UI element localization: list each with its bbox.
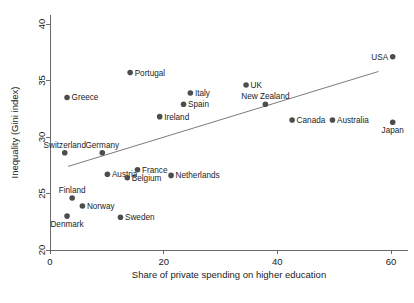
data-point: USA (371, 53, 395, 62)
data-point: Spain (181, 100, 210, 109)
y-tick-label: 25 (36, 188, 47, 199)
data-point: Portugal (127, 69, 165, 78)
point-label: Finland (59, 186, 86, 195)
point-marker (157, 114, 163, 120)
point-marker (64, 95, 70, 101)
point-marker (64, 213, 70, 219)
point-marker (263, 101, 269, 107)
point-marker (390, 120, 396, 126)
point-label: Sweden (125, 213, 155, 222)
y-tick-label: 35 (36, 75, 47, 86)
point-marker (127, 70, 133, 76)
point-marker (188, 90, 194, 96)
point-label: Australia (337, 116, 369, 125)
point-marker (330, 117, 336, 123)
point-label: Portugal (135, 69, 166, 78)
point-label: Italy (195, 89, 211, 98)
point-label: Spain (188, 100, 209, 109)
x-tick-label: 60 (386, 256, 397, 267)
data-point: Australia (330, 116, 370, 125)
point-label: New Zealand (241, 92, 290, 101)
data-point: Greece (64, 93, 99, 102)
point-marker (124, 175, 130, 181)
point-label: Germany (85, 141, 120, 150)
data-point: Netherlands (168, 171, 219, 180)
point-marker (168, 173, 174, 179)
point-marker (62, 150, 68, 156)
data-point: Sweden (118, 213, 155, 222)
data-point: Norway (80, 202, 116, 211)
point-label: Switzerland (44, 141, 87, 150)
x-tick-label: 20 (158, 256, 169, 267)
point-label: Denmark (50, 220, 84, 229)
scatter-plot: 20253035400204060Share of private spendi… (0, 0, 414, 303)
point-marker (80, 203, 86, 209)
point-label: USA (371, 53, 388, 62)
data-point: Germany (85, 141, 120, 156)
point-marker (181, 101, 187, 107)
point-marker (390, 54, 396, 60)
data-point: Ireland (157, 113, 190, 122)
point-marker (99, 150, 105, 156)
x-tick-label: 40 (272, 256, 283, 267)
point-marker (105, 171, 111, 177)
point-label: Norway (87, 202, 116, 211)
point-label: Canada (297, 116, 326, 125)
data-point: Japan (382, 120, 405, 135)
data-point: Canada (289, 116, 325, 125)
data-point: New Zealand (241, 92, 290, 107)
data-point: UK (243, 81, 262, 90)
data-point: Italy (188, 89, 211, 98)
data-point: Denmark (50, 213, 84, 228)
point-label: Belgium (132, 174, 162, 183)
y-axis-title: Inequality (Gini index) (9, 87, 20, 179)
chart-figure: 20253035400204060Share of private spendi… (0, 0, 414, 303)
point-label: Netherlands (176, 171, 220, 180)
y-tick-label: 40 (36, 19, 47, 30)
y-tick-label: 20 (36, 245, 47, 256)
point-label: Ireland (164, 113, 189, 122)
point-marker (118, 214, 124, 220)
x-tick-label: 0 (47, 256, 52, 267)
point-marker (243, 82, 249, 88)
point-marker (69, 195, 75, 201)
point-marker (289, 117, 295, 123)
data-point: Finland (59, 186, 86, 201)
point-label: UK (251, 81, 263, 90)
point-label: Japan (382, 126, 405, 135)
x-axis-title: Share of private spending on higher educ… (132, 269, 326, 280)
point-label: Greece (72, 93, 99, 102)
